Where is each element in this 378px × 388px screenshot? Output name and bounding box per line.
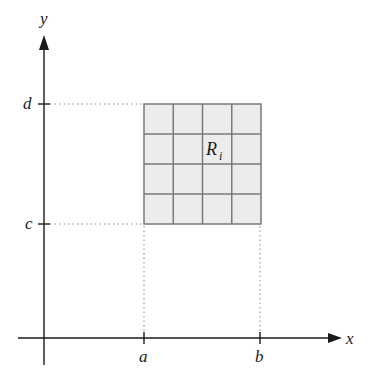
tick-label-c: c (25, 214, 33, 233)
coordinate-plane: y x d c a b R i (0, 0, 378, 388)
y-axis-label: y (38, 9, 48, 28)
diagram-canvas: y x d c a b R i (0, 0, 378, 388)
tick-label-d: d (23, 94, 32, 113)
region-label-subscript: i (219, 149, 222, 163)
tick-label-b: b (255, 347, 264, 366)
x-axis-label: x (345, 329, 354, 348)
region-label-base: R (205, 139, 217, 159)
x-axis-arrow-icon (328, 333, 342, 343)
region-grid (144, 104, 261, 224)
y-axis-arrow-icon (39, 35, 49, 50)
tick-label-a: a (139, 347, 148, 366)
